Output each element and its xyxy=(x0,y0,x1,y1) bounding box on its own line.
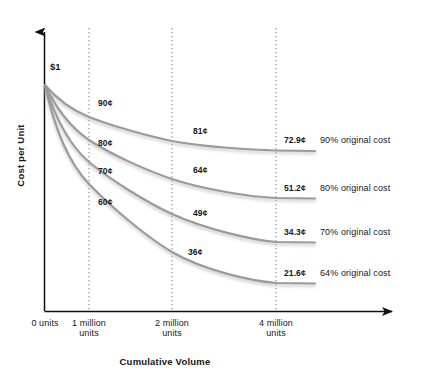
end-value-64: 21.6¢ xyxy=(284,269,306,279)
x-axis-title: Cumulative Volume xyxy=(0,357,330,368)
gridlines xyxy=(89,28,276,311)
experience-curve-chart: $1 90¢ 81¢ 80¢ 64¢ 70¢ 49¢ 60¢ 36¢ 72.9¢… xyxy=(0,0,429,380)
curve-label-70-at-1m: 70¢ xyxy=(98,167,112,177)
curve-label-80-at-1m: 80¢ xyxy=(98,139,112,149)
legend-label-90: 90% original cost xyxy=(320,135,390,145)
legend-label-64: 64% original cost xyxy=(320,268,390,278)
x-tick-1-million: 1 million units xyxy=(61,318,117,339)
curve-label-64-at-2m: 36¢ xyxy=(188,248,202,258)
y-axis-title: Cost per Unit xyxy=(15,106,26,206)
x-tick-4-million: 4 million units xyxy=(248,318,304,339)
x-tick-0-line1: 0 units xyxy=(31,318,58,328)
x-tick-2-line1: 2 million xyxy=(155,318,189,328)
legend-label-70: 70% original cost xyxy=(320,227,390,237)
curve-label-70-at-2m: 49¢ xyxy=(193,209,207,219)
legend-label-80: 80% original cost xyxy=(320,183,390,193)
x-tick-1-line1: 1 million xyxy=(72,318,106,328)
x-tick-2-line2: units xyxy=(162,328,182,338)
x-tick-2-million: 2 million units xyxy=(144,318,200,339)
curve-70-percent xyxy=(45,85,315,243)
end-value-70: 34.3¢ xyxy=(284,228,306,238)
curve-90-percent xyxy=(45,85,315,151)
curve-label-80-at-2m: 64¢ xyxy=(193,166,207,176)
x-tick-4-line2: units xyxy=(266,328,286,338)
end-value-80: 51.2¢ xyxy=(284,184,306,194)
curve-label-64-at-1m: 60¢ xyxy=(98,198,112,208)
x-tick-4-line1: 4 million xyxy=(259,318,293,328)
curve-label-90-at-1m: 90¢ xyxy=(98,99,112,109)
curves xyxy=(45,85,315,284)
curve-label-90-at-2m: 81¢ xyxy=(193,127,207,137)
x-tick-1-line2: units xyxy=(79,328,99,338)
end-value-90: 72.9¢ xyxy=(284,136,306,146)
start-value-label: $1 xyxy=(50,62,61,73)
